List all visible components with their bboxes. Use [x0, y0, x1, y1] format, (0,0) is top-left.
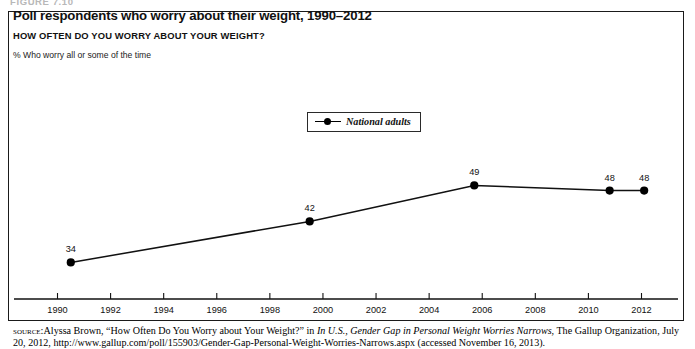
series-line-national-adults — [71, 185, 644, 262]
source-text-1: Alyssa Brown, “How Often Do You Worry ab… — [44, 325, 317, 336]
data-point-label: 49 — [469, 167, 479, 177]
x-axis-tick-label: 2006 — [472, 305, 492, 315]
x-axis-tick-label: 1992 — [100, 305, 120, 315]
series-points-national-adults — [67, 181, 649, 266]
x-axis-tick-label: 1990 — [47, 305, 67, 315]
figure-number-label: FIGURE 7.10 — [10, 0, 74, 7]
data-point-label: 48 — [605, 173, 615, 183]
data-point-label: 48 — [639, 173, 649, 183]
data-point — [606, 187, 614, 195]
x-axis-tick-label: 1996 — [207, 305, 227, 315]
data-point — [67, 258, 75, 266]
legend-marker-icon — [315, 117, 341, 127]
data-point — [306, 217, 314, 225]
x-axis-ticks — [58, 293, 642, 299]
legend-item-label: National adults — [346, 116, 411, 127]
x-axis-tick-label: 2000 — [313, 305, 333, 315]
data-point — [640, 187, 648, 195]
x-axis-tick-label: 2008 — [525, 305, 545, 315]
source-label: source: — [13, 325, 44, 336]
x-axis-tick-label: 2012 — [631, 305, 651, 315]
source-note: source:Alyssa Brown, “How Often Do You W… — [13, 325, 685, 349]
chart-legend: National adults — [307, 112, 421, 132]
source-italic-title: In U.S., Gender Gap in Personal Weight W… — [317, 325, 552, 336]
x-axis-tick-label: 1998 — [260, 305, 280, 315]
x-axis-tick-label: 2004 — [419, 305, 439, 315]
data-point-label: 42 — [305, 203, 315, 213]
figure-page: FIGURE 7.10 Poll respondents who worry a… — [0, 0, 695, 349]
x-axis-tick-label: 2002 — [366, 305, 386, 315]
line-chart-svg — [8, 11, 684, 321]
data-point — [470, 181, 478, 189]
x-axis-tick-label: 1994 — [153, 305, 173, 315]
data-point-label: 34 — [66, 244, 76, 254]
chart-plot-area: National adults 3442494848 1990199219941… — [8, 11, 684, 321]
x-axis-tick-label: 2010 — [578, 305, 598, 315]
